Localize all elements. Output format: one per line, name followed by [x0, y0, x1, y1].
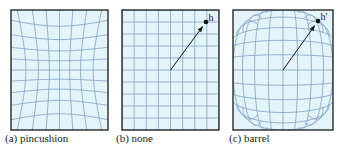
barrel-grid: h' [0, 0, 342, 135]
point-label: h' [321, 11, 328, 22]
caption-barrel: (c) barrel [229, 132, 270, 144]
